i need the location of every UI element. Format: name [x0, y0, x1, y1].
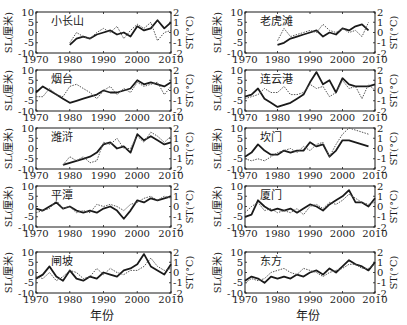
left-y-tick-label: -10 [227, 164, 243, 175]
right-y-tick-label: -2 [377, 48, 387, 59]
panel-5: 197019801990200020101050-5-10210-1-2SL(厘… [2, 123, 195, 182]
station-title: 老虎滩 [260, 14, 293, 28]
left-y-axis-label: SL(厘米) [2, 186, 14, 227]
right-y-tick-label: -2 [173, 48, 183, 59]
panel-10: 197019801990200020101050-5-10210-1-2SL(厘… [211, 247, 399, 306]
x-tick-label: 1990 [297, 228, 322, 239]
x-tick-label: 1990 [297, 112, 322, 123]
station-title: 平潭 [51, 189, 73, 202]
right-y-axis-label: ST(°C) [184, 73, 195, 107]
station-title: 闸坡 [51, 255, 73, 268]
station-title: 坎门 [260, 130, 282, 144]
global-xlabel-row: 年份 年份 [0, 306, 407, 324]
x-tick-label: 1980 [57, 228, 82, 239]
figure-canvas: 197019801990200020101050-5-10210-1-2SL(厘… [0, 0, 407, 325]
right-y-tick-label: -2 [377, 106, 387, 117]
x-tick-label: 1980 [265, 228, 290, 239]
panel-7: 197019801990200020101050-5-10210-1-2SL(厘… [2, 181, 195, 240]
right-y-tick-label: -2 [173, 164, 183, 175]
right-y-tick-label: -2 [377, 288, 387, 299]
left-y-tick-label: -10 [18, 48, 34, 59]
right-y-tick-label: -2 [173, 288, 183, 299]
left-y-tick-label: -10 [227, 288, 243, 299]
x-tick-label: 1980 [57, 294, 82, 305]
right-y-tick-label: -2 [377, 164, 387, 175]
panel-2: 197019801990200020101050-5-10210-1-2SL(厘… [211, 7, 399, 66]
right-y-tick-label: -2 [173, 222, 183, 233]
x-tick-label: 1990 [297, 170, 322, 181]
x-tick-label: 2000 [330, 228, 355, 239]
xlabel-left: 年份 [90, 306, 114, 323]
left-y-axis-label: SL(厘米) [2, 70, 14, 111]
right-y-axis-label: ST(°C) [184, 189, 195, 223]
xlabel-right: 年份 [296, 306, 320, 323]
right-y-tick-label: -2 [377, 222, 387, 233]
left-y-tick-label: -10 [18, 164, 34, 175]
left-y-axis-label: SL(厘米) [211, 12, 223, 53]
right-y-axis-label: ST(°C) [184, 131, 195, 165]
left-y-tick-label: -10 [227, 48, 243, 59]
right-y-axis-label: ST(°C) [184, 255, 195, 289]
x-tick-label: 1990 [297, 294, 322, 305]
right-y-axis-label: ST(°C) [388, 189, 399, 223]
x-tick-label: 1980 [265, 112, 290, 123]
station-title: 连云港 [260, 73, 293, 86]
x-tick-label: 1990 [91, 54, 116, 65]
right-y-axis-label: ST(°C) [184, 15, 195, 49]
left-y-axis-label: SL(厘米) [211, 252, 223, 293]
left-y-tick-label: -10 [227, 106, 243, 117]
panel-6: 197019801990200020101050-5-10210-1-2SL(厘… [211, 123, 399, 182]
left-y-tick-label: -10 [18, 222, 34, 233]
x-tick-label: 1980 [57, 112, 82, 123]
station-title: 厦门 [260, 188, 282, 202]
x-tick-label: 1990 [91, 112, 116, 123]
x-tick-label: 1990 [91, 228, 116, 239]
left-y-axis-label: SL(厘米) [211, 128, 223, 169]
panel-1: 197019801990200020101050-5-10210-1-2SL(厘… [2, 7, 195, 66]
x-tick-label: 2000 [330, 170, 355, 181]
x-tick-label: 1990 [91, 170, 116, 181]
x-tick-label: 2000 [125, 112, 150, 123]
panel-4: 197019801990200020101050-5-10210-1-2SL(厘… [211, 65, 399, 124]
x-tick-label: 2000 [125, 170, 150, 181]
x-tick-label: 1980 [57, 54, 82, 65]
left-y-axis-label: SL(厘米) [2, 128, 14, 169]
left-y-tick-label: -10 [227, 222, 243, 233]
x-tick-label: 2000 [125, 228, 150, 239]
right-y-axis-label: ST(°C) [388, 15, 399, 49]
right-y-axis-label: ST(°C) [388, 255, 399, 289]
right-y-axis-label: ST(°C) [388, 73, 399, 107]
left-y-tick-label: -10 [18, 106, 34, 117]
station-title: 东方 [260, 254, 282, 268]
x-tick-label: 2000 [125, 54, 150, 65]
panel-9: 197019801990200020101050-5-10210-1-2SL(厘… [2, 247, 195, 306]
x-tick-label: 2000 [330, 294, 355, 305]
left-y-axis-label: SL(厘米) [211, 70, 223, 111]
x-tick-label: 2000 [330, 112, 355, 123]
x-tick-label: 2000 [125, 294, 150, 305]
st-series-line [70, 22, 171, 43]
left-y-axis-label: SL(厘米) [211, 186, 223, 227]
x-tick-label: 1980 [265, 170, 290, 181]
left-y-tick-label: -10 [18, 288, 34, 299]
panel-8: 197019801990200020101050-5-10210-1-2SL(厘… [211, 181, 399, 240]
x-tick-label: 1980 [57, 170, 82, 181]
x-tick-label: 1980 [265, 54, 290, 65]
station-title: 潍浒 [51, 130, 73, 144]
x-tick-label: 1990 [91, 294, 116, 305]
left-y-axis-label: SL(厘米) [2, 252, 14, 293]
station-title: 烟台 [51, 72, 73, 86]
right-y-tick-label: -2 [173, 106, 183, 117]
x-tick-label: 1980 [265, 294, 290, 305]
station-title: 小长山 [51, 15, 84, 28]
right-y-axis-label: ST(°C) [388, 131, 399, 165]
panel-3: 197019801990200020101050-5-10210-1-2SL(厘… [2, 65, 195, 124]
left-y-axis-label: SL(厘米) [2, 12, 14, 53]
x-tick-label: 1990 [297, 54, 322, 65]
x-tick-label: 2000 [330, 54, 355, 65]
